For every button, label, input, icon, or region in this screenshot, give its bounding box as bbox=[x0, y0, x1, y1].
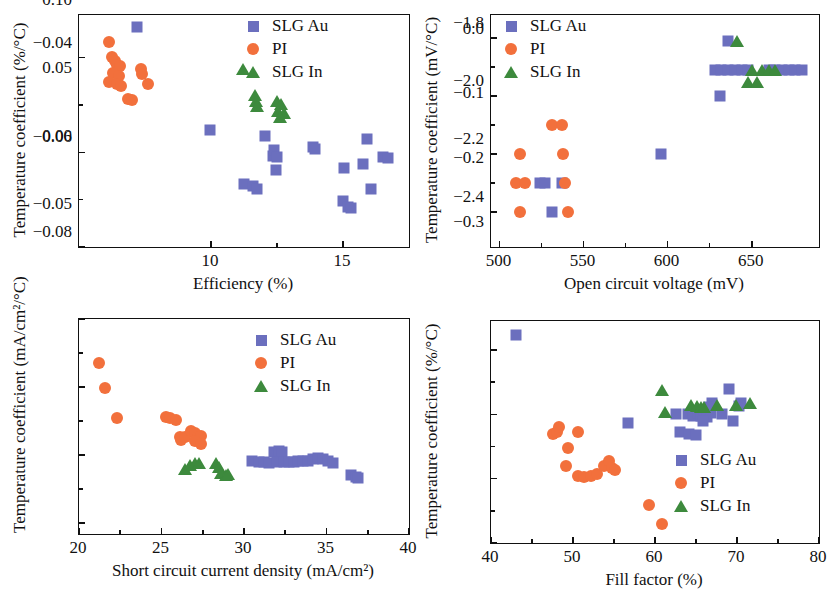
legend-swatch-square bbox=[500, 21, 522, 32]
x-tick bbox=[736, 537, 738, 543]
x-tick-label: 500 bbox=[486, 251, 512, 271]
data-point-slg-au bbox=[382, 152, 393, 163]
y-minor-tick bbox=[79, 352, 83, 354]
x-tick bbox=[342, 241, 344, 247]
x-minor-tick bbox=[276, 243, 278, 247]
data-point-pi bbox=[99, 382, 111, 394]
x-tick-label: 15 bbox=[334, 251, 351, 271]
figure-root: −0.04−0.06−0.081015Efficiency (%)Tempera… bbox=[0, 0, 829, 607]
y-tick bbox=[79, 522, 85, 524]
legend-label: PI bbox=[280, 353, 295, 373]
y-axis-title-panel-jsc: Temperature coefficient (mA/cm²/°C) bbox=[10, 318, 30, 533]
data-point-pi bbox=[572, 426, 584, 438]
data-point-slg-in bbox=[658, 406, 672, 418]
legend-label: PI bbox=[700, 473, 715, 493]
legend-swatch-circle bbox=[242, 43, 264, 55]
x-axis-title-panel-ff: Fill factor (%) bbox=[490, 570, 818, 590]
x-tick-label: 70 bbox=[728, 547, 745, 567]
y-minor-tick bbox=[491, 381, 495, 383]
y-axis-title-panel-ff: Temperature coefficient (%/°C) bbox=[422, 320, 442, 542]
y-minor-tick bbox=[79, 199, 83, 201]
legend-swatch-circle bbox=[250, 357, 272, 369]
x-tick bbox=[408, 528, 410, 534]
data-point-pi bbox=[126, 94, 138, 106]
x-minor-tick bbox=[695, 539, 697, 543]
data-point-pi bbox=[609, 464, 621, 476]
x-axis-title-panel-efficiency: Efficiency (%) bbox=[78, 274, 408, 294]
data-point-pi bbox=[643, 499, 655, 511]
x-tick bbox=[210, 241, 212, 247]
data-point-slg-in bbox=[768, 64, 782, 76]
legend-row-slg-au: SLG Au bbox=[250, 330, 336, 350]
data-point-pi bbox=[556, 119, 568, 131]
x-tick-label: 40 bbox=[482, 547, 499, 567]
y-minor-tick bbox=[491, 510, 495, 512]
legend-swatch-triangle bbox=[250, 380, 272, 392]
legend-row-pi: PI bbox=[500, 39, 586, 59]
x-minor-tick bbox=[777, 539, 779, 543]
data-point-pi bbox=[170, 414, 182, 426]
legend-swatch-circle bbox=[670, 477, 692, 489]
x-minor-tick bbox=[531, 539, 533, 543]
x-tick bbox=[818, 537, 820, 543]
circle-icon bbox=[247, 43, 259, 55]
x-tick-label: 30 bbox=[235, 538, 252, 558]
data-point-pi bbox=[111, 412, 123, 424]
data-point-pi bbox=[142, 78, 154, 90]
data-point-slg-au bbox=[727, 416, 738, 427]
data-point-slg-au bbox=[365, 183, 376, 194]
circle-icon bbox=[255, 357, 267, 369]
x-tick bbox=[572, 537, 574, 543]
x-tick bbox=[78, 528, 80, 534]
x-tick-label: 60 bbox=[646, 547, 663, 567]
legend-label: SLG In bbox=[280, 376, 331, 396]
legend-panel-jsc: SLG AuPISLG In bbox=[250, 330, 336, 399]
legend-swatch-triangle bbox=[670, 500, 692, 512]
data-point-slg-au bbox=[132, 21, 143, 32]
x-minor-tick bbox=[119, 530, 121, 534]
triangle-icon bbox=[504, 66, 518, 78]
data-point-slg-au bbox=[671, 408, 682, 419]
data-point-slg-in bbox=[697, 401, 711, 413]
y-minor-tick bbox=[491, 124, 495, 126]
x-tick bbox=[161, 528, 163, 534]
y-tick bbox=[491, 542, 497, 544]
y-tick-label: 0.05 bbox=[20, 58, 72, 78]
y-tick bbox=[79, 454, 85, 456]
data-point-slg-in bbox=[743, 397, 757, 409]
x-tick bbox=[243, 528, 245, 534]
legend-swatch-circle bbox=[500, 43, 522, 55]
data-point-slg-au bbox=[511, 330, 522, 341]
x-minor-tick bbox=[613, 539, 615, 543]
data-point-slg-au bbox=[622, 418, 633, 429]
x-tick bbox=[667, 241, 669, 247]
data-point-slg-au bbox=[252, 184, 263, 195]
data-point-slg-in bbox=[221, 468, 235, 480]
x-tick-label: 650 bbox=[738, 251, 764, 271]
x-minor-tick bbox=[541, 243, 543, 247]
x-minor-tick bbox=[202, 530, 204, 534]
legend-panel-voc: SLG AuPISLG In bbox=[500, 16, 586, 85]
x-tick-label: 25 bbox=[152, 538, 169, 558]
y-tick-label: −0.05 bbox=[20, 194, 72, 214]
legend-label: SLG Au bbox=[530, 16, 586, 36]
data-point-slg-in bbox=[192, 457, 206, 469]
data-point-pi bbox=[562, 206, 574, 218]
y-tick bbox=[79, 318, 85, 320]
x-tick bbox=[583, 241, 585, 247]
x-tick-label: 550 bbox=[570, 251, 596, 271]
y-tick-label: 0.10 bbox=[20, 0, 72, 10]
data-point-slg-in bbox=[655, 384, 669, 396]
data-point-slg-au bbox=[204, 124, 215, 135]
legend-label: SLG In bbox=[700, 496, 751, 516]
y-tick bbox=[491, 211, 497, 213]
legend-swatch-triangle bbox=[242, 66, 264, 78]
data-point-slg-in bbox=[750, 76, 764, 88]
data-point-pi bbox=[514, 206, 526, 218]
x-tick-label: 35 bbox=[317, 538, 334, 558]
legend-label: PI bbox=[272, 39, 287, 59]
legend-row-slg-au: SLG Au bbox=[242, 16, 328, 36]
legend-label: PI bbox=[530, 39, 545, 59]
plot-area-panel-ff bbox=[490, 320, 820, 544]
x-minor-tick bbox=[284, 530, 286, 534]
